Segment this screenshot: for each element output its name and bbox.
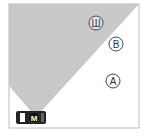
point-sh-label: Ш xyxy=(91,18,100,29)
point-sh: Ш xyxy=(89,16,103,30)
diagram-canvas: Ш B A M xyxy=(0,0,144,138)
point-b: B xyxy=(109,37,123,51)
visibility-cone xyxy=(9,4,139,117)
car-label: M xyxy=(31,114,38,123)
point-a-label: A xyxy=(110,76,117,87)
point-a: A xyxy=(106,74,120,88)
car-icon: M xyxy=(16,111,46,124)
point-b-label: B xyxy=(113,39,120,50)
